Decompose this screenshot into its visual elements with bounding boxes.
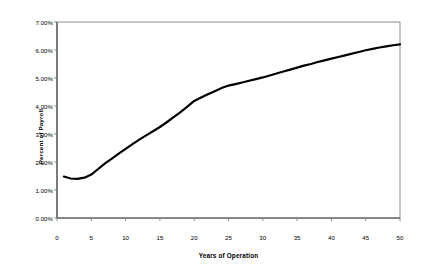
x-tick-label: 10 bbox=[114, 234, 138, 241]
x-tick-label: 5 bbox=[79, 234, 103, 241]
x-tick-label: 45 bbox=[354, 234, 378, 241]
x-tick-label: 20 bbox=[182, 234, 206, 241]
x-tick-label: 35 bbox=[285, 234, 309, 241]
x-tick-label: 50 bbox=[388, 234, 412, 241]
x-axis-tick-labels: 05101520253035404550 bbox=[0, 234, 426, 246]
x-tick-label: 0 bbox=[45, 234, 69, 241]
x-axis-title: Years of Operation bbox=[57, 252, 400, 259]
plot-area bbox=[0, 0, 426, 273]
x-tick-label: 30 bbox=[251, 234, 275, 241]
x-tick-label: 15 bbox=[148, 234, 172, 241]
x-tick-label: 40 bbox=[319, 234, 343, 241]
x-tick-label: 25 bbox=[217, 234, 241, 241]
chart-container: Percent of Payroll 0.00%1.00%2.00%3.00%4… bbox=[0, 0, 426, 273]
axis-lines bbox=[57, 22, 400, 218]
